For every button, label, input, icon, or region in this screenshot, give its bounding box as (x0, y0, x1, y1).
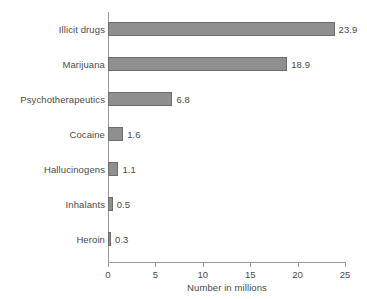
category-label: Marijuana (62, 59, 105, 70)
category-label: Illicit drugs (59, 24, 105, 35)
category-label: Psychotherapeutics (20, 94, 105, 105)
category-label: Cocaine (69, 129, 105, 140)
category-label: Heroin (76, 234, 105, 245)
x-tick-mark (155, 262, 156, 267)
bar-row: Illicit drugs23.9 (0, 22, 367, 36)
bar-row: Psychotherapeutics6.8 (0, 92, 367, 106)
x-axis-line (108, 262, 346, 263)
bar-row: Hallucinogens1.1 (0, 162, 367, 176)
bar-chart: Illicit drugs23.9Marijuana18.9Psychother… (0, 0, 367, 299)
bar (108, 127, 123, 141)
x-tick-label: 25 (340, 269, 351, 280)
category-label: Inhalants (66, 199, 105, 210)
x-tick-mark (250, 262, 251, 267)
x-tick-mark (203, 262, 204, 267)
bar-row: Marijuana18.9 (0, 57, 367, 71)
bar (108, 92, 172, 106)
bar (108, 162, 118, 176)
bar-row: Heroin0.3 (0, 232, 367, 246)
bar (108, 22, 335, 36)
bar-value-label: 1.6 (127, 129, 141, 140)
x-tick-label: 5 (153, 269, 158, 280)
x-tick-label: 20 (292, 269, 303, 280)
x-tick-mark (345, 262, 346, 267)
bar-row: Inhalants0.5 (0, 197, 367, 211)
bar (108, 232, 111, 246)
bar-value-label: 0.5 (117, 199, 131, 210)
bar-value-label: 18.9 (291, 59, 310, 70)
bar (108, 57, 287, 71)
bar-value-label: 23.9 (339, 24, 358, 35)
x-tick-mark (298, 262, 299, 267)
bar-row: Cocaine1.6 (0, 127, 367, 141)
x-tick-mark (108, 262, 109, 267)
x-tick-label: 15 (245, 269, 256, 280)
x-tick-label: 10 (198, 269, 209, 280)
category-label: Hallucinogens (44, 164, 105, 175)
bar (108, 197, 113, 211)
x-axis-title: Number in millions (108, 282, 346, 293)
x-tick-label: 0 (105, 269, 110, 280)
bar-value-label: 1.1 (122, 164, 136, 175)
bar-value-label: 6.8 (176, 94, 190, 105)
plot-area: Illicit drugs23.9Marijuana18.9Psychother… (0, 0, 367, 299)
bar-value-label: 0.3 (115, 234, 129, 245)
